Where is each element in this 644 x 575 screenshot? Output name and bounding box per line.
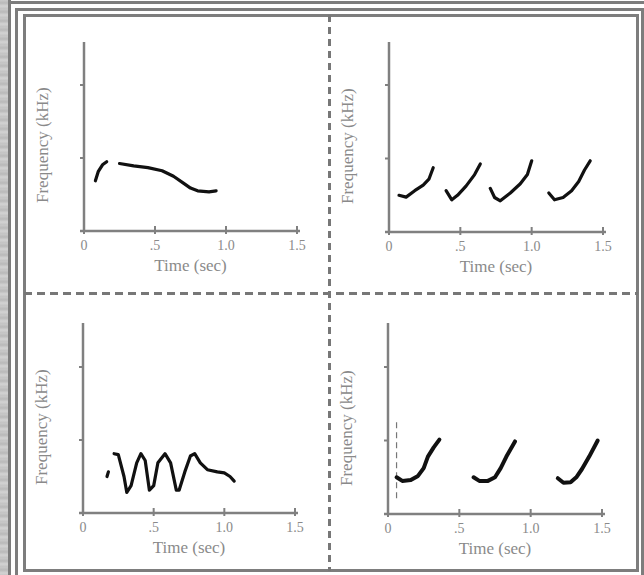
spectrogram-trace-note-3 [558,441,598,483]
y-axis-label: Frequency (kHz) [338,370,355,486]
x-tick-label: .5 [454,522,465,536]
spectrogram-trace-note-2 [474,441,515,481]
spectrogram-trace-note-1 [397,440,440,481]
x-tick-label: 1.5 [593,522,611,536]
x-axis-label: Time (sec) [459,540,532,557]
x-tick-label: 0 [385,522,392,536]
x-tick-label: 1.0 [522,522,540,536]
spectrogram-plot [0,0,644,575]
